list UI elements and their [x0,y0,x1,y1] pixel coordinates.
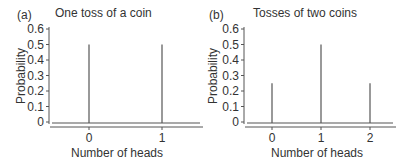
y-axis-label: Probability [206,48,220,104]
chart-panel-a: (a)One toss of a coin00.10.20.30.40.50.6… [0,0,205,164]
chart-title: One toss of a coin [55,6,152,20]
y-tick-label: 0 [232,115,239,129]
y-tick-label: 0 [37,115,44,129]
chart-panel-b: (b)Tosses of two coins00.10.20.30.40.50.… [205,0,415,164]
y-tick-label: 0.2 [222,84,239,98]
y-tick-label: 0.3 [27,69,44,83]
y-tick-label: 0.1 [27,100,44,114]
x-tick-label: 0 [86,131,93,145]
panel-label: (a) [17,8,32,22]
x-axis-label: Number of heads [71,146,163,160]
y-tick-label: 0.6 [27,22,44,36]
y-tick-label: 0.1 [222,100,239,114]
y-tick-label: 0.4 [27,53,44,67]
y-tick-label: 0.6 [222,22,239,36]
y-tick-label: 0.4 [222,53,239,67]
x-tick-label: 1 [318,131,325,145]
x-axis-label: Number of heads [271,146,363,160]
x-tick-label: 1 [159,131,166,145]
x-tick-label: 0 [269,131,276,145]
y-tick-label: 0.2 [27,84,44,98]
y-tick-label: 0.5 [222,38,239,52]
chart-title: Tosses of two coins [253,6,357,20]
y-tick-label: 0.3 [222,69,239,83]
chart-a-svg: (a)One toss of a coin00.10.20.30.40.50.6… [0,0,205,164]
panel-label: (b) [209,8,224,22]
y-tick-label: 0.5 [27,38,44,52]
x-tick-label: 2 [367,131,374,145]
chart-b-svg: (b)Tosses of two coins00.10.20.30.40.50.… [205,0,415,164]
y-axis-label: Probability [14,48,28,104]
